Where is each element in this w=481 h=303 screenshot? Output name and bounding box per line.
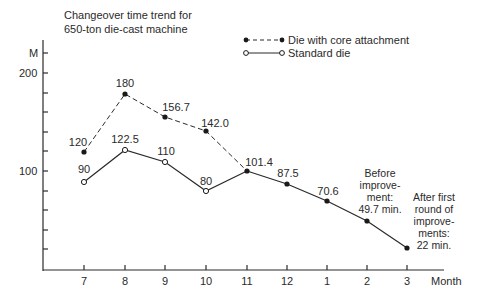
y-tick-label-200: 200 [19,67,37,79]
x-tick-label: 8 [122,275,128,287]
svg-text:Before: Before [365,167,396,179]
open-circle-marker-icon [280,51,285,56]
data-label: 80 [200,175,212,187]
svg-text:22 min.: 22 min. [417,239,451,251]
legend-item-standard-die: Standard die [244,47,351,59]
data-label: 101.4 [245,156,273,168]
x-tick-label: 1 [324,275,330,287]
svg-text:ments:: ments: [418,227,450,239]
data-label: 70.6 [317,185,338,197]
legend-label: Die with core attachment [288,34,409,46]
filled-circle-marker-icon [280,38,285,43]
x-tick-label: 12 [281,275,293,287]
x-tick-label: 2 [364,275,370,287]
data-label: 122.5 [111,133,139,145]
x-tick-label: 10 [200,275,212,287]
svg-text:improve-: improve- [414,215,455,227]
annotation-after-first-round: After first round of improve- ments: 22 … [413,191,455,251]
svg-text:round of: round of [415,203,454,215]
svg-text:49.7 min.: 49.7 min. [358,203,401,215]
chart-title-line-1: Changeover time trend for [64,9,192,21]
data-label: 156.7 [162,101,190,113]
data-label: 90 [78,163,90,175]
data-label: 87.5 [277,167,298,179]
legend-item-core-attachment: Die with core attachment [244,34,409,46]
data-label: 110 [157,145,175,157]
data-label: 142.0 [201,117,229,129]
legend-label: Standard die [288,47,350,59]
x-tick-label: 7 [81,275,87,287]
svg-text:After first: After first [413,191,455,203]
data-label: 120 [69,136,87,148]
changeover-time-chart: Changeover time trend for 650-ton die-ca… [0,0,481,303]
data-label: 180 [116,77,134,89]
filled-circle-marker-icon [244,38,249,43]
open-circle-marker-icon [244,51,249,56]
x-axis-title: Month [431,275,462,287]
x-tick-label: 9 [162,275,168,287]
annotation-before-improvement: Before improve- ment: 49.7 min. [358,167,401,215]
x-tick-label: 3 [404,275,410,287]
chart-title-line-2: 650-ton die-cast machine [64,23,188,35]
svg-text:improve-: improve- [360,179,401,191]
y-tick-label-100: 100 [19,165,37,177]
svg-text:ment:: ment: [367,191,393,203]
legend: Die with core attachment Standard die [244,34,409,59]
y-axis-unit-label: M [29,47,38,59]
standard-die-markers [81,147,208,193]
x-axis [43,265,444,270]
x-tick-label: 11 [241,275,252,287]
y-axis [43,40,48,271]
